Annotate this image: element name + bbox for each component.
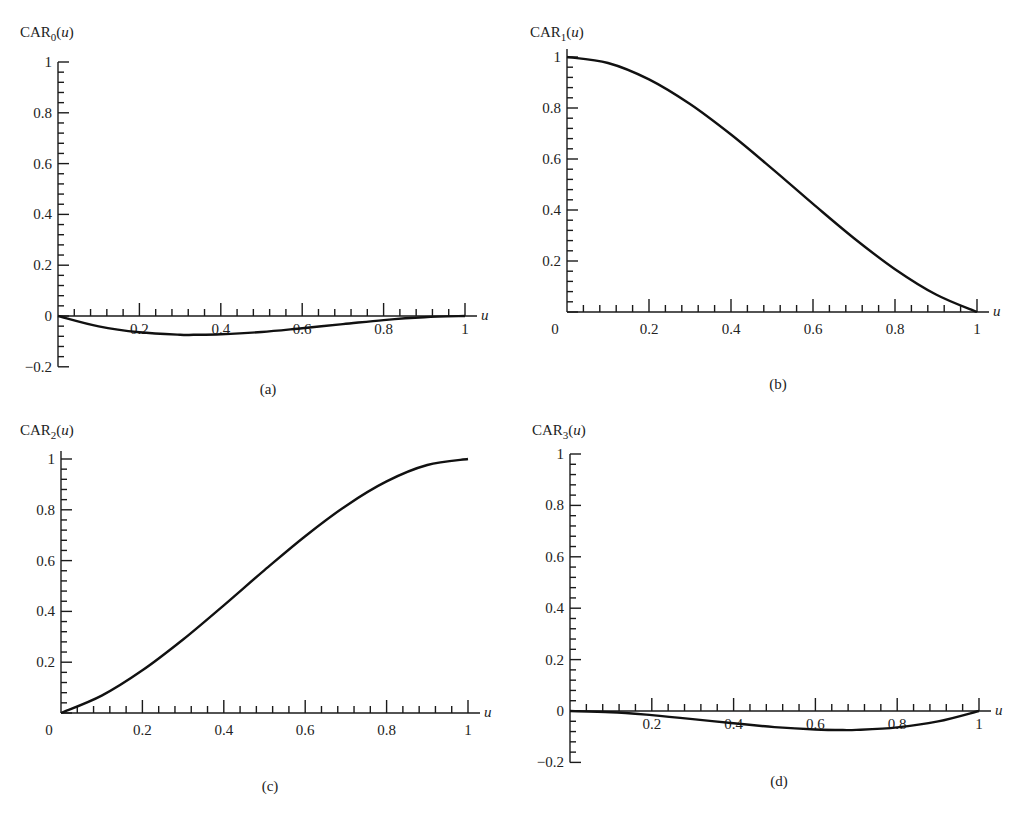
y-tick-label: −0.2 bbox=[25, 359, 52, 375]
chart-panel-c: CAR2(u)0.20.40.60.8100.20.40.60.81u(c) bbox=[20, 422, 492, 795]
y-tick-label: 0.8 bbox=[36, 502, 55, 518]
y-tick-label: 1 bbox=[48, 451, 56, 467]
y-tick-label: 0.2 bbox=[36, 654, 55, 670]
x-axis-title: u bbox=[484, 704, 492, 720]
x-axis-title: u bbox=[995, 702, 1003, 718]
y-tick-label: 0.6 bbox=[542, 151, 561, 167]
x-tick-label: 0.6 bbox=[804, 321, 823, 337]
y-tick-label: 0.4 bbox=[33, 206, 52, 222]
x-axis-title: u bbox=[993, 303, 1001, 319]
basis-curve bbox=[61, 459, 468, 713]
y-tick-label: 0.2 bbox=[33, 257, 52, 273]
basis-curve bbox=[570, 711, 979, 730]
panel-caption: (c) bbox=[262, 778, 279, 795]
y-tick-label: −0.2 bbox=[537, 754, 564, 770]
x-tick-label: 0.2 bbox=[640, 321, 659, 337]
y-tick-label: 0.6 bbox=[33, 156, 52, 172]
y-tick-label: 0.8 bbox=[545, 497, 564, 513]
x-tick-label: 1 bbox=[975, 716, 983, 732]
x-tick-label: 1 bbox=[464, 722, 472, 738]
x-tick-label: 0 bbox=[551, 321, 559, 337]
x-tick-label: 0.4 bbox=[722, 321, 741, 337]
catmull-rom-basis-figure: CAR0(u)−0.200.20.40.60.810.20.40.60.81u(… bbox=[0, 0, 1020, 814]
basis-curve bbox=[567, 57, 977, 312]
x-tick-label: 0.2 bbox=[642, 716, 661, 732]
y-axis-title: CAR1(u) bbox=[530, 24, 584, 43]
y-tick-label: 0.4 bbox=[36, 603, 55, 619]
y-tick-label: 1 bbox=[45, 54, 53, 70]
x-tick-label: 0.2 bbox=[130, 321, 149, 337]
x-tick-label: 0 bbox=[45, 722, 53, 738]
y-tick-label: 1 bbox=[557, 446, 565, 462]
chart-panel-d: CAR3(u)−0.200.20.40.60.810.20.40.60.81u(… bbox=[532, 422, 1003, 790]
x-tick-label: 0.6 bbox=[296, 722, 315, 738]
x-tick-label: 1 bbox=[461, 321, 469, 337]
x-tick-label: 0.2 bbox=[133, 722, 152, 738]
y-tick-label: 0 bbox=[45, 308, 53, 324]
chart-panel-a: CAR0(u)−0.200.20.40.60.810.20.40.60.81u(… bbox=[20, 24, 489, 398]
panel-caption: (d) bbox=[770, 773, 788, 790]
y-tick-label: 0.4 bbox=[542, 202, 561, 218]
chart-panel-b: CAR1(u)0.20.40.60.8100.20.40.60.81u(b) bbox=[530, 24, 1001, 393]
y-tick-label: 0.2 bbox=[545, 652, 564, 668]
y-axis-title: CAR3(u) bbox=[532, 422, 586, 441]
y-tick-label: 0.6 bbox=[545, 549, 564, 565]
panel-caption: (a) bbox=[260, 381, 277, 398]
x-tick-label: 0.8 bbox=[377, 722, 396, 738]
y-tick-label: 0.6 bbox=[36, 553, 55, 569]
x-tick-label: 1 bbox=[973, 321, 981, 337]
y-tick-label: 1 bbox=[554, 49, 562, 65]
y-axis-title: CAR0(u) bbox=[20, 24, 74, 43]
x-tick-label: 0.8 bbox=[374, 321, 393, 337]
y-tick-label: 0.8 bbox=[33, 105, 52, 121]
y-tick-label: 0 bbox=[557, 703, 565, 719]
y-tick-label: 0.8 bbox=[542, 100, 561, 116]
y-axis-title: CAR2(u) bbox=[20, 422, 74, 441]
basis-curve bbox=[58, 316, 465, 335]
y-tick-label: 0.4 bbox=[545, 600, 564, 616]
y-tick-label: 0.2 bbox=[542, 253, 561, 269]
panel-caption: (b) bbox=[769, 376, 787, 393]
x-tick-label: 0.8 bbox=[888, 716, 907, 732]
x-axis-title: u bbox=[481, 307, 489, 323]
x-tick-label: 0.4 bbox=[214, 722, 233, 738]
x-tick-label: 0.8 bbox=[886, 321, 905, 337]
